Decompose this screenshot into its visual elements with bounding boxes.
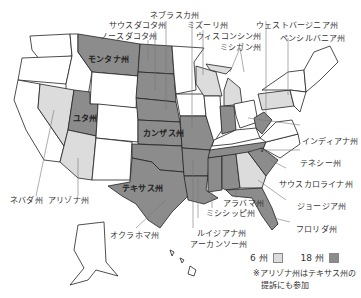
state-mississippi <box>208 156 222 192</box>
state-north-dakota <box>138 44 174 74</box>
state-mid-atlantic <box>290 90 306 112</box>
label-tennessee: テネシー州 <box>300 160 341 168</box>
label-michigan: ミシガン州 <box>220 44 261 52</box>
label-wisconsin: ウィスコンシン州 <box>196 33 262 41</box>
label-nevada: ネバダ州 <box>10 197 43 205</box>
state-new-england <box>304 46 338 92</box>
legend-light-swatch <box>273 253 283 263</box>
state-oregon <box>18 56 72 84</box>
label-florida: フロリダ州 <box>296 226 337 234</box>
footnote: ※アリゾナ州はテキサス州の 提訴にも参加 <box>253 268 361 291</box>
label-kansas: カンザス州 <box>143 130 184 138</box>
label-west-virginia: ウェストバージニア州 <box>256 22 338 30</box>
state-michigan <box>224 78 242 106</box>
footnote-line-2: 提訴にも参加 <box>253 280 361 292</box>
state-ohio <box>234 100 258 128</box>
state-wyoming <box>90 72 138 108</box>
legend-dark-swatch <box>329 253 339 263</box>
label-mississippi: ミシシッピ州 <box>206 210 255 218</box>
state-arkansas <box>182 148 210 176</box>
label-oklahoma: オクラホマ州 <box>110 232 159 240</box>
state-south-dakota <box>136 72 176 102</box>
label-arkansas: アーカンソー州 <box>190 241 247 249</box>
label-indiana: インディアナ州 <box>302 138 358 146</box>
label-louisiana: ルイジアナ州 <box>197 230 246 238</box>
legend: 6 州 18 州 <box>250 251 339 264</box>
label-texas: テキサス州 <box>122 185 163 193</box>
state-new-york <box>262 70 306 92</box>
label-north-dakota: ノースダコタ州 <box>100 33 157 41</box>
label-utah: ユタ州 <box>73 115 98 123</box>
label-nebraska: ネブラスカ州 <box>150 12 199 20</box>
state-iowa <box>176 94 206 116</box>
label-south-dakota: サウスダコタ州 <box>109 22 166 30</box>
state-colorado <box>96 104 138 142</box>
label-georgia: ジョージア州 <box>297 203 346 211</box>
state-new-mexico <box>92 138 132 180</box>
state-nebraska <box>136 98 180 122</box>
state-hawaii <box>170 250 196 276</box>
state-pennsylvania <box>258 90 294 110</box>
label-arizona: アリゾナ州 <box>48 197 89 205</box>
footnote-line-1: ※アリゾナ州はテキサス州の <box>253 268 361 280</box>
state-indiana <box>220 106 236 134</box>
label-pennsylvania: ペンシルバニア州 <box>280 35 346 43</box>
label-montana: モンタナ州 <box>88 56 129 64</box>
legend-light-label: 6 州 <box>250 251 268 264</box>
label-south-carolina: サウスカロライナ州 <box>279 181 353 189</box>
label-alabama: アラバマ州 <box>223 200 264 208</box>
label-missouri: ミズーリ州 <box>187 22 228 30</box>
legend-dark-label: 18 州 <box>301 251 324 264</box>
